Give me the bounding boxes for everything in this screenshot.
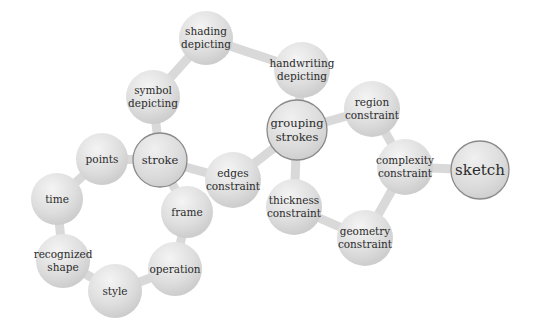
node-label: recognized (34, 248, 93, 260)
node-operation: operation (148, 242, 202, 296)
node-label: operation (149, 263, 200, 275)
node-label: geometry (340, 225, 391, 237)
node-geometry-constraint: geometryconstraint (337, 210, 393, 266)
node-symbol-depicting: symboldepicting (126, 70, 180, 124)
node-label: thickness (269, 194, 319, 206)
node-label: constraint (267, 207, 322, 219)
node-label: shape (47, 261, 78, 273)
node-label: constraint (378, 167, 433, 179)
node-label: points (86, 153, 119, 165)
node-label: constraint (338, 238, 393, 250)
node-sketch: sketch (451, 141, 509, 199)
node-points: points (76, 133, 128, 185)
node-shading-depicting: shadingdepicting (179, 11, 233, 65)
node-label: shading (185, 25, 227, 37)
node-label: depicting (128, 97, 178, 109)
node-label: depicting (277, 70, 327, 82)
node-label: style (102, 285, 127, 297)
node-label: frame (171, 206, 202, 218)
node-label: constraint (345, 109, 400, 121)
node-stroke: stroke (133, 133, 187, 187)
node-edges-constraint: edgesconstraint (205, 152, 261, 208)
node-label: symbol (134, 84, 172, 96)
node-label: grouping (271, 116, 325, 130)
node-handwriting-depicting: handwritingdepicting (270, 42, 335, 98)
node-grouping-strokes: groupingstrokes (267, 100, 327, 160)
node-label: strokes (276, 130, 319, 144)
node-label: complexity (376, 154, 434, 166)
node-label: edges (217, 167, 248, 179)
node-label: depicting (181, 38, 231, 50)
node-time: time (31, 173, 83, 225)
node-frame: frame (161, 186, 213, 238)
node-label: handwriting (270, 57, 335, 69)
node-thickness-constraint: thicknessconstraint (266, 179, 322, 235)
node-region-constraint: regionconstraint (344, 81, 400, 137)
node-style: style (88, 264, 142, 318)
node-label: time (45, 193, 69, 205)
node-label: stroke (142, 153, 179, 167)
node-recognized-shape: recognizedshape (34, 234, 93, 288)
node-label: region (355, 96, 390, 108)
node-label: constraint (206, 180, 261, 192)
node-complexity-constraint: complexityconstraint (376, 139, 434, 195)
concept-map-diagram: sketchcomplexityconstraintregionconstrai… (0, 0, 538, 326)
node-label: sketch (455, 161, 505, 179)
